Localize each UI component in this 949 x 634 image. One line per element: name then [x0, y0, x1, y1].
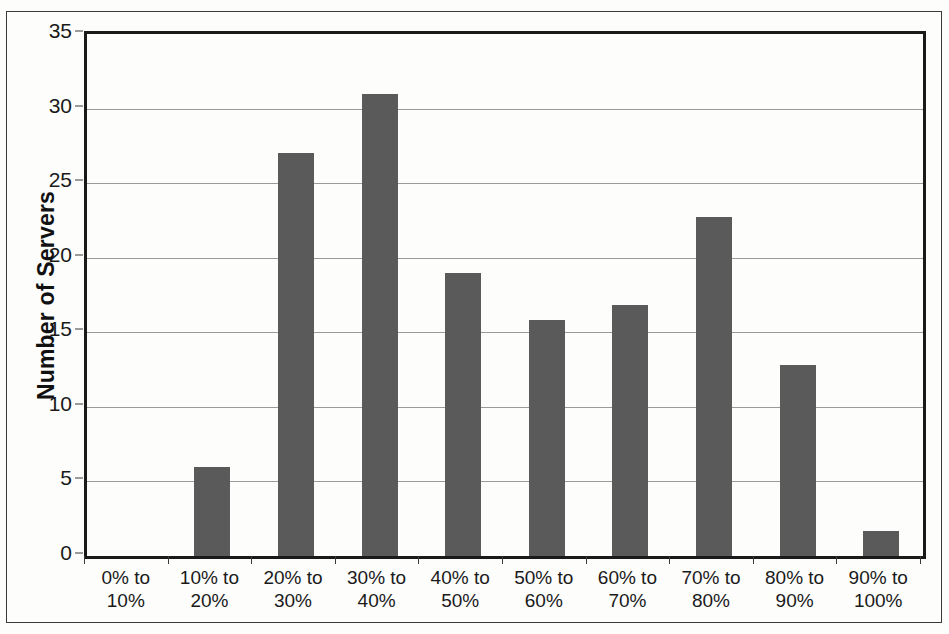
x-axis-tick-mark [753, 556, 754, 564]
x-axis-tick-label: 70% to80% [663, 566, 759, 612]
bar [612, 305, 648, 556]
x-axis-tick-label: 10% to20% [161, 566, 257, 612]
x-axis-tick-label-line2: 10% [78, 589, 174, 612]
x-axis-tick-label: 30% to40% [329, 566, 425, 612]
x-axis-tick-label-line1: 40% to [431, 567, 490, 588]
x-axis-tick-label: 90% to100% [830, 566, 926, 612]
bar [445, 273, 481, 556]
x-axis-tick-label: 0% to10% [78, 566, 174, 612]
x-axis-tick-label-line1: 20% to [263, 567, 322, 588]
x-axis-tick-mark [502, 556, 503, 564]
x-axis-tick-mark [418, 556, 419, 564]
bar-series [87, 34, 923, 556]
y-axis-tick-label: 30 [26, 94, 72, 118]
x-axis-tick-mark [168, 556, 169, 564]
y-axis-tick-mark [75, 553, 83, 554]
x-axis-tick-mark [84, 556, 85, 564]
y-axis-tick-label: 15 [26, 317, 72, 341]
y-axis-tick-label: 25 [26, 168, 72, 192]
plot-area [84, 31, 926, 559]
x-axis-tick-label: 40% to50% [412, 566, 508, 612]
x-axis-tick-label-line2: 90% [747, 589, 843, 612]
y-axis-tick-label: 0 [26, 541, 72, 565]
x-axis-tick-label-line2: 50% [412, 589, 508, 612]
x-axis-tick-label-line1: 80% to [765, 567, 824, 588]
y-axis-tick-label: 5 [26, 466, 72, 490]
x-axis-tick-label-line2: 60% [496, 589, 592, 612]
bar [696, 217, 732, 556]
y-axis-tick-label: 35 [26, 19, 72, 43]
y-axis-tick-label: 10 [26, 392, 72, 416]
x-axis-tick-label-line2: 80% [663, 589, 759, 612]
x-axis-tick-label: 80% to90% [747, 566, 843, 612]
x-axis-tick-label: 50% to60% [496, 566, 592, 612]
x-axis-tick-label-line1: 10% to [180, 567, 239, 588]
x-axis-tick-label-line2: 70% [579, 589, 675, 612]
x-axis-tick-label: 20% to30% [245, 566, 341, 612]
x-axis-tick-label-line2: 100% [830, 589, 926, 612]
bar [278, 153, 314, 556]
y-axis-tick-mark [75, 31, 83, 32]
x-axis-tick-label-line1: 90% to [849, 567, 908, 588]
x-axis-tick-label-line2: 20% [161, 589, 257, 612]
x-axis-tick-mark [920, 556, 921, 564]
bar [529, 320, 565, 556]
x-axis-tick-mark [251, 556, 252, 564]
x-axis-tick-label-line1: 60% to [598, 567, 657, 588]
x-axis-tick-mark [836, 556, 837, 564]
x-axis-tick-label: 60% to70% [579, 566, 675, 612]
bar [194, 467, 230, 556]
x-axis-tick-mark [586, 556, 587, 564]
y-axis-tick-mark [75, 478, 83, 479]
x-axis-tick-label-line2: 30% [245, 589, 341, 612]
x-axis-tick-mark [335, 556, 336, 564]
y-axis-tick-mark [75, 329, 83, 330]
x-axis-tick-label-line2: 40% [329, 589, 425, 612]
x-axis-tick-label-line1: 30% to [347, 567, 406, 588]
x-axis-tick-label-line1: 0% to [102, 567, 151, 588]
chart-page: Number of Servers 05101520253035 0% to10… [0, 0, 949, 634]
y-axis-tick-mark [75, 254, 83, 255]
x-axis-tick-label-line1: 50% to [514, 567, 573, 588]
bar [362, 94, 398, 556]
bar [780, 365, 816, 556]
y-axis-tick-mark [75, 403, 83, 404]
bar [863, 531, 899, 556]
y-axis-tick-label: 20 [26, 243, 72, 267]
x-axis-tick-mark [669, 556, 670, 564]
x-axis-tick-label-line1: 70% to [681, 567, 740, 588]
y-axis-tick-mark [75, 105, 83, 106]
y-axis-tick-mark [75, 180, 83, 181]
